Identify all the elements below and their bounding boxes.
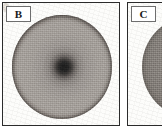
panel-label-c: C: [131, 6, 156, 22]
colony-disc-b: [12, 15, 112, 119]
panel-label-b: B: [6, 6, 31, 22]
panel-label-c-text: C: [140, 9, 148, 20]
figure-root: B C: [0, 0, 162, 130]
figure-panel-b: B: [2, 2, 120, 126]
figure-panel-c: C: [127, 2, 162, 126]
panel-label-b-text: B: [15, 9, 22, 20]
colony-disc-c: [142, 16, 162, 118]
